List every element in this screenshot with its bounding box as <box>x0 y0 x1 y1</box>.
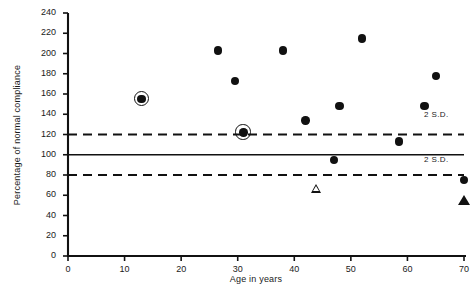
data-point-filled-circle <box>279 46 287 54</box>
y-tick-label-40: 40 <box>26 210 56 220</box>
y-tick-label-60: 60 <box>26 189 56 199</box>
x-tick-label-30: 30 <box>226 264 250 274</box>
compliance-vs-age-scatter-chart: Percentage of normal compliance Age in y… <box>0 0 470 292</box>
data-point-filled-circle <box>301 116 309 124</box>
y-tick-label-180: 180 <box>26 68 56 78</box>
data-point-filled-triangle <box>458 195 470 205</box>
data-point-filled-circle <box>395 137 403 145</box>
x-tick-label-70: 70 <box>452 264 470 274</box>
x-axis-title: Age in years <box>196 274 316 284</box>
x-tick-label-60: 60 <box>395 264 419 274</box>
data-point-filled-circle <box>330 156 338 164</box>
lower-2sd-label: 2 S.D. <box>424 155 449 164</box>
y-tick-label-80: 80 <box>26 169 56 179</box>
data-point-circled-filled-circle <box>239 128 247 136</box>
x-tick-label-20: 20 <box>169 264 193 274</box>
upper-2sd-label: 2 S.D. <box>424 110 449 119</box>
y-tick-label-20: 20 <box>26 230 56 240</box>
y-tick-label-240: 240 <box>26 7 56 17</box>
data-point-circled-filled-circle <box>137 95 145 103</box>
x-tick-label-10: 10 <box>113 264 137 274</box>
chart-axes <box>0 0 470 292</box>
y-tick-label-220: 220 <box>26 27 56 37</box>
y-tick-label-100: 100 <box>26 149 56 159</box>
x-tick-label-0: 0 <box>56 264 80 274</box>
data-point-filled-circle <box>335 102 343 110</box>
x-tick-label-50: 50 <box>339 264 363 274</box>
y-tick-label-0: 0 <box>26 250 56 260</box>
data-point-filled-circle <box>214 46 222 54</box>
y-tick-label-200: 200 <box>26 48 56 58</box>
data-point-filled-circle <box>432 72 440 80</box>
data-point-filled-circle <box>420 102 428 110</box>
open-triangle-inner <box>313 186 319 191</box>
y-axis-title: Percentage of normal compliance <box>12 60 22 210</box>
y-tick-label-140: 140 <box>26 108 56 118</box>
data-point-filled-circle <box>231 77 239 85</box>
data-point-filled-circle <box>358 34 366 42</box>
y-tick-label-120: 120 <box>26 129 56 139</box>
y-tick-label-160: 160 <box>26 88 56 98</box>
x-tick-label-40: 40 <box>282 264 306 274</box>
